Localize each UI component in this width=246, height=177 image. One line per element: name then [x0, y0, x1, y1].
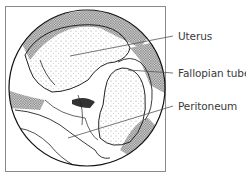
- diagram-canvas: [0, 0, 246, 177]
- label-peritoneum: Peritoneum: [178, 101, 237, 112]
- label-fallopian-tube: Fallopian tube: [178, 68, 246, 79]
- label-uterus: Uterus: [178, 31, 212, 42]
- scope-view: [0, 0, 246, 177]
